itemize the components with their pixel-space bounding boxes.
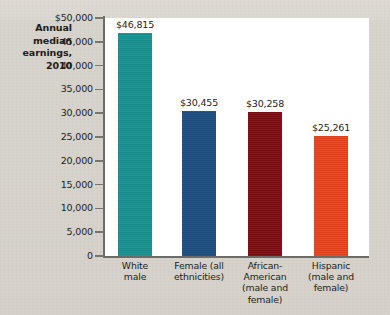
bar — [248, 112, 282, 256]
x-axis-category-line: Hispanic — [297, 260, 365, 271]
chart-title-line: earnings, — [0, 47, 72, 60]
x-axis-category-line: male — [101, 271, 169, 282]
bar-texture — [248, 112, 282, 256]
y-axis-tick-label: 40,000 — [61, 61, 93, 71]
y-axis-tick-label: 15,000 — [61, 180, 93, 190]
bar-value-label: $46,815 — [95, 19, 175, 30]
bar-texture — [182, 111, 216, 256]
y-axis-tick — [95, 231, 104, 233]
x-axis-category-label: Hispanic(male andfemale) — [297, 260, 365, 294]
y-axis-tick — [95, 41, 104, 43]
y-axis-tick — [95, 255, 104, 257]
x-axis-category-line: White — [101, 260, 169, 271]
chart-page: Annualmedianearnings,2010 $50,00045,0004… — [0, 0, 390, 315]
chart-title-line: Annual — [0, 22, 72, 35]
y-axis-tick-label: 20,000 — [61, 156, 93, 166]
x-axis-line — [103, 256, 369, 258]
y-axis-tick — [95, 160, 104, 162]
y-axis-tick-label: 35,000 — [61, 84, 93, 94]
y-axis-tick — [95, 65, 104, 67]
x-axis-category-line: African- — [231, 260, 299, 271]
x-axis-category-line: (male and — [231, 282, 299, 293]
x-axis-category-line: American — [231, 271, 299, 282]
y-axis-tick — [95, 184, 104, 186]
y-axis-tick-label: 10,000 — [61, 203, 93, 213]
x-axis-category-line: (male and — [297, 271, 365, 282]
x-axis-category-line: Female (all — [165, 260, 233, 271]
bar — [314, 136, 348, 256]
y-axis-tick-label: 30,000 — [61, 108, 93, 118]
y-axis-tick — [95, 208, 104, 210]
bar-texture — [314, 136, 348, 256]
y-axis-tick-label: 5,000 — [67, 227, 93, 237]
bar-value-label: $30,258 — [225, 98, 305, 109]
y-axis-tick — [95, 136, 104, 138]
bar-value-label: $25,261 — [291, 122, 371, 133]
x-axis-category-label: Whitemale — [101, 260, 169, 282]
x-axis-category-label: African-American(male andfemale) — [231, 260, 299, 305]
x-axis-category-line: female) — [231, 294, 299, 305]
x-axis-category-line: female) — [297, 282, 365, 293]
bar — [118, 33, 152, 256]
y-axis-tick — [95, 89, 104, 91]
bar — [182, 111, 216, 256]
y-axis-tick-label: 45,000 — [61, 37, 93, 47]
x-axis-category-line: ethnicities) — [165, 271, 233, 282]
y-axis-tick — [95, 112, 104, 114]
y-axis-tick-label: 25,000 — [61, 132, 93, 142]
x-axis-category-label: Female (allethnicities) — [165, 260, 233, 282]
y-axis-tick-label: $50,000 — [55, 13, 93, 23]
y-axis-tick-label: 0 — [87, 251, 93, 261]
bar-texture — [118, 33, 152, 256]
